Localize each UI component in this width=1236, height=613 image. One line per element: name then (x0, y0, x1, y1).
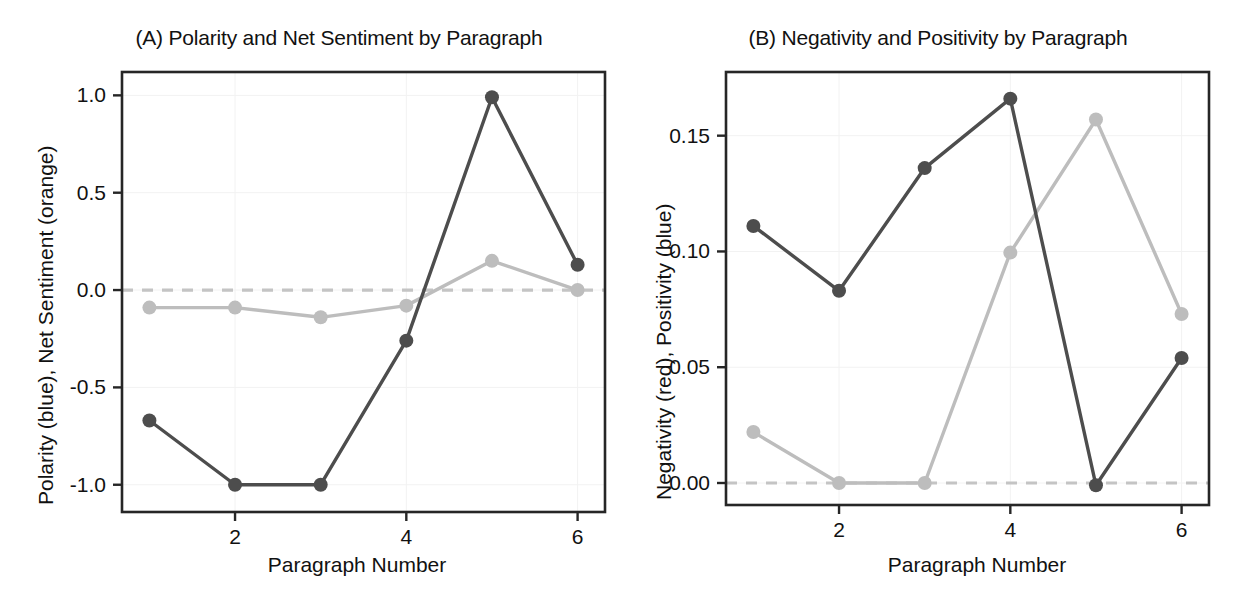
y-axis-tick-label: 0.05 (669, 355, 710, 378)
panel-a-x-axis-label: Paragraph Number (0, 553, 618, 577)
data-point-marker (485, 254, 499, 268)
y-axis-tick-label: 0.5 (77, 181, 106, 204)
panel-a-plot-group: 1.00.50.0-0.5-1.0246 (70, 72, 605, 548)
panel-b-plot: 0.150.100.050.00246 (618, 0, 1236, 613)
panel-b: (B) Negativity and Positivity by Paragra… (618, 0, 1236, 613)
y-axis-tick-label: 0.0 (77, 278, 106, 301)
series-line (753, 99, 1181, 486)
y-axis-tick-label: 1.0 (77, 83, 106, 106)
data-point-marker (1175, 307, 1189, 321)
x-axis-tick-label: 2 (833, 518, 845, 541)
plot-frame (726, 72, 1209, 505)
y-axis-tick-label: 0.10 (669, 239, 710, 262)
panel-b-x-axis-label: Paragraph Number (618, 553, 1236, 577)
data-point-marker (1089, 112, 1103, 126)
panel-a-plot: 1.00.50.0-0.5-1.0246 (0, 0, 618, 613)
x-axis-tick-label: 2 (229, 525, 241, 548)
data-point-marker (918, 476, 932, 490)
data-point-marker (142, 413, 156, 427)
figure-container: (A) Polarity and Net Sentiment by Paragr… (0, 0, 1236, 613)
data-point-marker (1089, 478, 1103, 492)
panel-b-plot-group: 0.150.100.050.00246 (669, 72, 1209, 541)
y-axis-tick-label: -0.5 (70, 375, 106, 398)
data-point-marker (228, 301, 242, 315)
y-axis-tick-label: -1.0 (70, 473, 106, 496)
data-point-marker (1003, 92, 1017, 106)
data-point-marker (314, 478, 328, 492)
data-point-marker (1175, 351, 1189, 365)
data-point-marker (832, 476, 846, 490)
plot-frame (122, 72, 605, 512)
data-point-marker (746, 425, 760, 439)
panel-a: (A) Polarity and Net Sentiment by Paragr… (0, 0, 618, 613)
data-point-marker (1003, 246, 1017, 260)
series-line (753, 119, 1181, 483)
data-point-marker (228, 478, 242, 492)
data-point-marker (485, 90, 499, 104)
data-point-marker (918, 161, 932, 175)
data-point-marker (571, 258, 585, 272)
x-axis-tick-label: 4 (1004, 518, 1016, 541)
x-axis-tick-label: 4 (400, 525, 412, 548)
data-point-marker (314, 310, 328, 324)
x-axis-tick-label: 6 (572, 525, 584, 548)
data-point-marker (571, 283, 585, 297)
x-axis-tick-label: 6 (1176, 518, 1188, 541)
data-point-marker (832, 284, 846, 298)
data-point-marker (399, 334, 413, 348)
y-axis-tick-label: 0.00 (669, 471, 710, 494)
data-point-marker (746, 219, 760, 233)
data-point-marker (399, 299, 413, 313)
y-axis-tick-label: 0.15 (669, 124, 710, 147)
data-point-marker (142, 301, 156, 315)
